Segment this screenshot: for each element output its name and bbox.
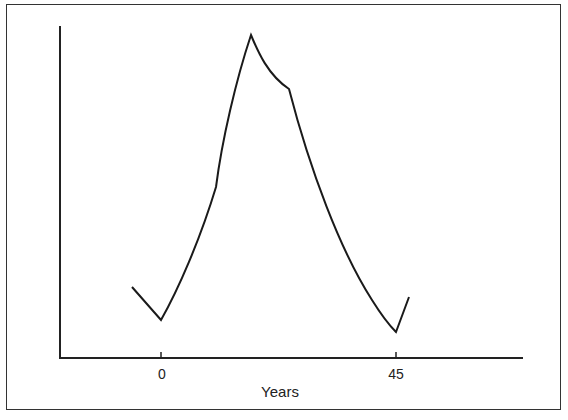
x-axis-title: Years <box>261 383 299 400</box>
x-tick-label-45: 45 <box>388 366 404 382</box>
line-chart <box>0 0 568 420</box>
x-tick-label-0: 0 <box>158 366 166 382</box>
data-curve <box>132 35 409 332</box>
